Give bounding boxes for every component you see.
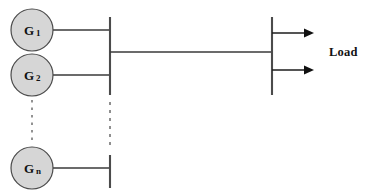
generator-subscript-gn: n — [36, 166, 41, 176]
arrow-right-icon — [304, 66, 314, 75]
generator-subscript-g1: 1 — [36, 28, 41, 38]
generator-g1: G 1 — [11, 9, 53, 51]
generator-g2: G 2 — [11, 54, 53, 96]
load-label: Load — [329, 45, 358, 60]
generator-label-gn: G — [24, 161, 34, 176]
single-line-diagram: G 1 G 2 G n Load — [0, 0, 379, 193]
diagram-canvas: G 1 G 2 G n — [0, 0, 379, 193]
generator-subscript-g2: 2 — [36, 73, 41, 83]
generator-gn: G n — [11, 147, 53, 189]
generator-label-g2: G — [24, 68, 34, 83]
generator-label-g1: G — [24, 23, 34, 38]
arrow-right-icon — [304, 29, 314, 38]
